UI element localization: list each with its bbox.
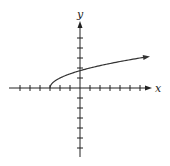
function-graph: x y: [0, 0, 170, 166]
y-axis: y: [76, 8, 84, 157]
curve-arrow-icon: [143, 55, 150, 60]
y-axis-label: y: [76, 8, 84, 21]
y-axis-arrow-icon: [78, 21, 83, 28]
x-axis-arrow-icon: [145, 86, 152, 91]
x-axis: x: [9, 82, 162, 95]
x-axis-label: x: [155, 82, 162, 95]
curve-sqrt: [50, 55, 150, 88]
